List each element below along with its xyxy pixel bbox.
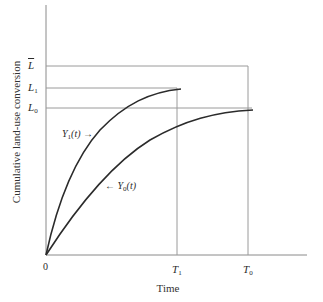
lbar-label: L: [28, 60, 34, 71]
y0-curve-label: ← Y0(t): [105, 181, 136, 193]
l1-label: L1: [28, 82, 38, 95]
t0-label: T0: [243, 264, 253, 277]
lbar-text: L: [28, 59, 34, 71]
y0-args: (t): [127, 180, 136, 191]
y1-args: (t): [71, 128, 80, 139]
origin-label: 0: [43, 262, 48, 272]
t0-subscript: 0: [249, 269, 253, 277]
l1-subscript: 1: [34, 87, 38, 95]
right-arrow-icon: →: [83, 128, 93, 139]
x-axis-title: Time: [157, 282, 180, 294]
t1-subscript: 1: [178, 269, 182, 277]
l0-subscript: 0: [34, 107, 38, 115]
left-arrow-icon: ←: [105, 180, 115, 191]
y-axis-title: Cumulative land-use conversion: [10, 61, 22, 203]
l0-label: L0: [28, 102, 38, 115]
y1-curve: [46, 89, 181, 255]
land-use-conversion-figure: L L1 L0 0 T1 T0 Y1(t) → ← Y0(t) Cumulati…: [0, 0, 323, 302]
y1-curve-label: Y1(t) →: [62, 129, 93, 141]
chart-canvas: [0, 0, 323, 302]
t1-label: T1: [172, 264, 182, 277]
